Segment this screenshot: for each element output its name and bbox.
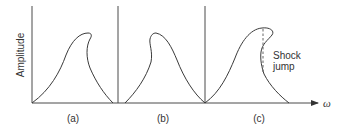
x-axis-label-omega: ω (323, 97, 331, 109)
shock-jump-line1: Shock (273, 50, 301, 61)
shock-jump-annotation: Shock jump (273, 50, 301, 72)
panel-label-a: (a) (67, 113, 79, 124)
response-curve-b (125, 33, 205, 103)
y-axis-label: Amplitude (15, 33, 26, 77)
panel-label-c: (c) (253, 113, 265, 124)
response-curve-a (32, 33, 113, 103)
shock-jump-line2: jump (273, 61, 301, 72)
panel-label-b: (b) (157, 113, 169, 124)
